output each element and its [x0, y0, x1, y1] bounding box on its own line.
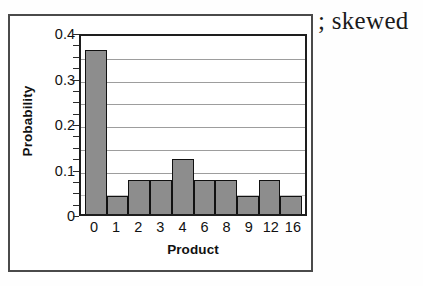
bar	[85, 50, 107, 214]
plot-area	[79, 34, 307, 216]
bar	[172, 159, 194, 214]
x-tick-label: 4	[171, 219, 193, 239]
bar-cell	[194, 36, 216, 214]
y-tick-label: 0.3	[55, 72, 75, 88]
x-tick-label: 2	[127, 219, 149, 239]
bar-cell	[259, 36, 281, 214]
bar-cell	[107, 36, 129, 214]
y-tick-label: 0.1	[55, 163, 75, 179]
bar	[194, 180, 216, 214]
x-tick-label: 1	[105, 219, 127, 239]
bar-cell	[150, 36, 172, 214]
x-tick-label: 3	[149, 219, 171, 239]
bar-cell	[280, 36, 302, 214]
bar	[259, 180, 281, 214]
bar-series	[81, 36, 305, 214]
x-tick-label: 12	[260, 219, 282, 239]
bar-cell	[172, 36, 194, 214]
x-axis-title: Product	[79, 242, 307, 257]
x-tick-label: 0	[83, 219, 105, 239]
figure-frame: Probability 0.40.30.20.10 012346891216 P…	[8, 14, 313, 272]
x-tick-label: 16	[282, 219, 304, 239]
bar-cell	[128, 36, 150, 214]
y-axis-tick-labels: 0.40.30.20.10	[30, 16, 75, 274]
y-tick-label: 0.4	[55, 26, 75, 42]
bar-cell	[215, 36, 237, 214]
bar-cell	[85, 36, 107, 214]
x-tick-label: 6	[193, 219, 215, 239]
y-minor-tick	[73, 216, 79, 217]
y-tick-label: 0.2	[55, 117, 75, 133]
x-tick-label: 8	[216, 219, 238, 239]
figure-screenshot: ; skewed Probability 0.40.30.20.10 01234…	[0, 0, 423, 286]
bar	[237, 196, 259, 214]
bar	[215, 180, 237, 214]
bar	[107, 196, 129, 214]
bar	[128, 180, 150, 214]
bar	[150, 180, 172, 214]
x-tick-label: 9	[238, 219, 260, 239]
trailing-caption-text: ; skewed	[318, 7, 409, 35]
bar	[280, 196, 302, 214]
x-axis-tick-labels: 012346891216	[79, 219, 307, 239]
bar-cell	[237, 36, 259, 214]
